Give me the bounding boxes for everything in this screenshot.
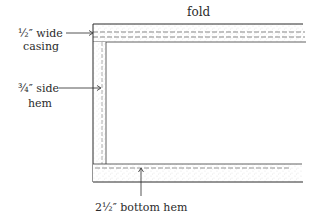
- side-hem-label-line1: ¾″ side: [18, 82, 59, 95]
- bottom-hem-band: [93, 164, 303, 182]
- side-hem-label-line2: hem: [28, 97, 52, 110]
- casing-label-line2: casing: [23, 40, 59, 53]
- bottom-hem-label: 2½″ bottom hem: [95, 201, 187, 214]
- casing-arrow: [66, 31, 93, 36]
- side-hem: [93, 24, 106, 182]
- casing-label-line1: ½″ wide: [18, 27, 63, 40]
- fold-label: fold: [187, 6, 210, 19]
- casing-band: [93, 24, 306, 42]
